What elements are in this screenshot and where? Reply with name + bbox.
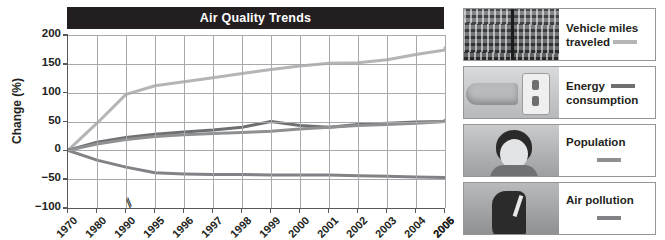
x-axis-tick-label: 1990 [105,214,138,240]
gridline-vertical [329,35,330,208]
x-axis-tick-mark [154,208,155,213]
gridline-vertical [358,35,359,208]
y-axis-tick-label: −100 [35,200,61,212]
legend-color-swatch [597,158,621,162]
legend-color-swatch [611,84,635,88]
gridline-horizontal [68,122,445,123]
x-axis-tick-label: 1997 [192,214,225,240]
legend-item-label: Population [566,135,651,149]
legend-item-label: Vehicle milestraveled [566,21,651,49]
y-axis-tick-label: 50 [48,114,61,126]
x-axis-tick-label: 2003 [366,214,399,240]
gridline-vertical [416,35,417,208]
x-axis-tick-mark [96,208,97,213]
x-axis-tick-label: 2002 [337,214,370,240]
x-axis-tick-label: 2000 [279,214,312,240]
x-axis-tick-mark [125,208,126,213]
gridline-vertical [445,35,446,208]
legend-item-vehicle-miles-traveled[interactable]: Vehicle milestraveled [463,8,656,61]
x-axis-tick-label: 1980 [76,214,109,240]
gridline-vertical [155,35,156,208]
legend-item-air-pollution[interactable]: Air pollution [463,182,656,235]
x-axis-tick-label: 2004 [395,214,428,240]
x-axis-tick-mark [67,208,68,213]
x-axis-tick-label: 2006 [424,214,457,240]
traffic-icon [464,9,559,60]
legend-item-label: Population [566,135,651,167]
legend-swatch-row [566,149,651,167]
gridline-horizontal [68,35,445,36]
gridline-horizontal [68,179,445,180]
x-axis-tick-label: 1999 [250,214,283,240]
gridline-vertical [126,35,127,208]
x-axis-tick-mark [386,208,387,213]
y-axis-tick-label: 100 [42,85,61,97]
cigarette-smoke-icon [464,183,559,234]
y-axis-tick-label: −50 [41,171,61,183]
gridline-vertical [387,35,388,208]
gridline-vertical [271,35,272,208]
legend-color-swatch [613,40,637,44]
legend-panel: Vehicle milestraveled EnergyconsumptionP… [463,4,663,238]
chart-title-bar: Air Quality Trends [67,7,444,29]
gridline-vertical [300,35,301,208]
x-axis-tick-label: 1970 [47,214,80,240]
legend-item-population[interactable]: Population [463,124,656,177]
page-title: Air Quality Trends [200,11,311,25]
legend-label-wrap: Population [559,125,655,176]
legend-item-label: Energy [566,79,605,93]
gridline-vertical [242,35,243,208]
chart-panel: Air Quality Trends Change (%) 2001501005… [0,0,460,240]
y-axis-tick-label: 200 [42,27,61,39]
electrical-outlet-icon [464,67,559,118]
legend-item-label: Air pollution [566,193,651,225]
legend-item-label: Energyconsumption [566,79,651,107]
legend-label-wrap: Energyconsumption [559,67,655,118]
gridline-vertical [184,35,185,208]
y-axis-tick-labels: 200150100500−50−100 [0,35,61,208]
gridline-horizontal [68,150,445,151]
gridline-vertical [97,35,98,208]
x-axis-tick-mark [212,208,213,213]
x-axis-tick-mark [299,208,300,213]
x-axis-tick-mark [328,208,329,213]
series-line [68,150,445,178]
legend-label-wrap: Vehicle milestraveled [559,9,655,60]
x-axis-tick-mark [241,208,242,213]
legend-item-label: Air pollution [566,193,651,207]
y-axis-tick-label: 150 [42,56,61,68]
gridline-horizontal [68,64,445,65]
x-axis-tick-mark [444,208,445,213]
x-axis-tick-mark [183,208,184,213]
x-axis-tick-mark [415,208,416,213]
x-axis-tick-mark [270,208,271,213]
y-axis-tick-label: 0 [55,142,61,154]
legend-label-wrap: Air pollution [559,183,655,234]
x-axis-tick-label: 1996 [163,214,196,240]
x-axis-tick-label: 1995 [134,214,167,240]
gridline-vertical [213,35,214,208]
plot-area [67,35,445,209]
x-axis-tick-label: 1998 [221,214,254,240]
legend-item-energy-consumption[interactable]: Energyconsumption [463,66,656,119]
legend-color-swatch [597,216,621,220]
legend-item-label: consumption [566,93,651,107]
x-axis-tick-label: 2001 [308,214,341,240]
x-axis-tick-mark [357,208,358,213]
gridline-horizontal [68,93,445,94]
legend-swatch-row [566,207,651,225]
baby-icon [464,125,559,176]
